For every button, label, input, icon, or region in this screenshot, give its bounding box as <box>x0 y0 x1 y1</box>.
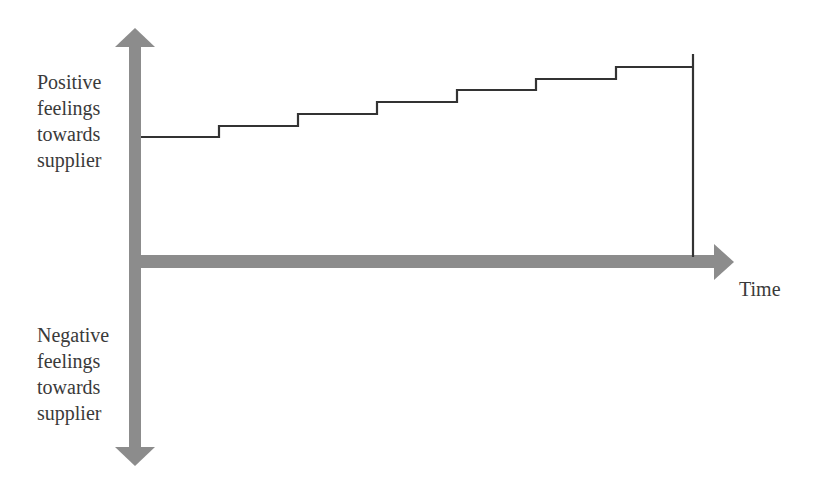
positive-label-line-1: Positive <box>37 69 101 95</box>
negative-label-line-4: supplier <box>37 400 109 426</box>
negative-label-line-2: feelings <box>37 348 109 374</box>
arrow-up-icon <box>115 28 155 47</box>
arrow-right-icon <box>714 244 734 280</box>
positive-label-line-4: supplier <box>37 147 101 173</box>
x-axis-arrow <box>141 244 734 280</box>
positive-label-line-2: feelings <box>37 95 101 121</box>
arrow-down-icon <box>115 447 155 466</box>
negative-feelings-label: Negative feelings towards supplier <box>37 322 109 426</box>
negative-label-line-3: towards <box>37 374 109 400</box>
feelings-step-line <box>141 67 693 137</box>
time-axis-label: Time <box>739 276 781 302</box>
negative-label-line-1: Negative <box>37 322 109 348</box>
positive-label-line-3: towards <box>37 121 101 147</box>
diagram-canvas <box>0 0 825 496</box>
positive-feelings-label: Positive feelings towards supplier <box>37 69 101 173</box>
y-axis-arrow <box>115 28 155 466</box>
